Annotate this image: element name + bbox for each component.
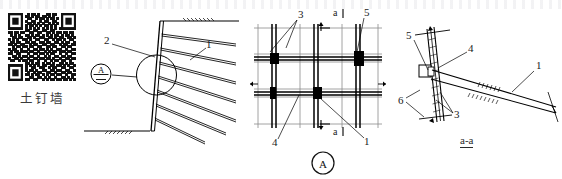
engineering-drawing-canvas: A [0, 0, 562, 179]
section-mark-bottom-a: a [333, 126, 337, 137]
callout-mid-3: 3 [298, 9, 304, 20]
aa-top-arrow [428, 26, 433, 31]
drawing-sheet: A [0, 0, 562, 179]
section-cut-top [319, 22, 331, 31]
mesh-node [313, 87, 322, 99]
mesh-callout-leaders [270, 18, 364, 139]
mesh-right-arrow [383, 82, 386, 87]
aa-top-cut-line [415, 30, 450, 35]
drawing-title-cjk: 土钉墙 [20, 88, 65, 107]
middle-mesh-plan: A [250, 9, 386, 174]
soil-nail [161, 34, 236, 46]
callout-mid-4: 4 [272, 137, 278, 148]
callout-mid-5: 5 [364, 7, 370, 18]
mesh-node [270, 87, 276, 99]
section-title-aa: a-a [460, 134, 473, 148]
view-tag-label-A: A [319, 158, 327, 170]
aa-bottom-arrow [429, 118, 434, 123]
qr-code-canvas [8, 13, 76, 81]
callout-leader-2 [112, 44, 155, 57]
soil-nail [157, 90, 236, 122]
right-section-aa [406, 26, 558, 123]
callout-right-3: 3 [454, 109, 460, 120]
soil-nail [155, 118, 205, 144]
mesh-node [354, 51, 364, 66]
callout-mid-1: 1 [364, 136, 370, 147]
callout-left-1: 1 [206, 39, 212, 50]
mesh-node [270, 53, 279, 64]
callout-right-4: 4 [468, 43, 474, 54]
aa-nail-top-line [432, 70, 556, 107]
callout-right-5: 5 [406, 30, 412, 41]
soil-nail [159, 62, 236, 84]
callout-left-2: 2 [104, 35, 110, 46]
detail-bubble-label: A [98, 65, 105, 75]
mesh-left-arrow [250, 82, 253, 87]
callout-right-6: 6 [398, 95, 404, 106]
mesh-vertical-bars [272, 24, 360, 128]
qr-code [8, 13, 76, 81]
section-mark-top-a: a [333, 7, 337, 18]
soil-nail-group [155, 34, 236, 144]
callout-right-1: 1 [536, 60, 542, 71]
aa-far-end-tick [548, 92, 558, 122]
soil-nail [156, 104, 226, 135]
detail-bubble-leader [112, 75, 137, 77]
section-cut-bottom [319, 120, 331, 130]
